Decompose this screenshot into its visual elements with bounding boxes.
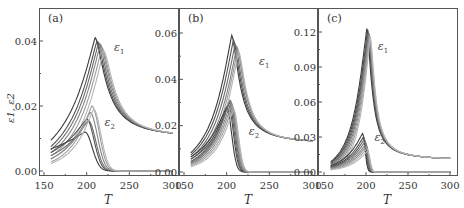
x-tick-label: 150 bbox=[314, 180, 333, 191]
panels: 1502002503000.000.020.04(a)ε1ε2T15020025… bbox=[15, 9, 460, 208]
panel-label: (c) bbox=[327, 12, 342, 25]
x-tick-label: 150 bbox=[174, 180, 193, 191]
curve-annotation: ε2 bbox=[105, 116, 115, 131]
y-tick-label: 0.09 bbox=[294, 62, 316, 73]
y-tick-label: 0.12 bbox=[294, 27, 316, 38]
x-tick-label: 300 bbox=[440, 180, 459, 191]
curve-annotation: ε2 bbox=[249, 125, 259, 140]
panel-c: 1502002503000.000.030.060.090.12(c)ε1ε2T bbox=[294, 9, 460, 208]
y-tick-label: 0.02 bbox=[155, 120, 177, 131]
figure: 1502002503000.000.020.04(a)ε1ε2T15020025… bbox=[0, 0, 464, 208]
x-tick-label: 150 bbox=[34, 180, 53, 191]
x-axis-label: T bbox=[383, 193, 392, 207]
curves bbox=[331, 29, 451, 173]
x-axis-label: T bbox=[104, 193, 113, 207]
curve-epsilon2 bbox=[51, 132, 173, 171]
x-tick-label: 200 bbox=[356, 180, 375, 191]
x-tick-label: 250 bbox=[398, 180, 417, 191]
curve-annotation: ε1 bbox=[259, 55, 269, 70]
panel-label: (b) bbox=[188, 12, 204, 25]
x-axis-label: T bbox=[244, 193, 253, 207]
x-tick-label: 250 bbox=[260, 180, 279, 191]
y-tick-label: 0.00 bbox=[155, 167, 177, 178]
x-tick-label: 250 bbox=[120, 180, 139, 191]
y-tick-label: 0.04 bbox=[155, 74, 177, 85]
y-tick-label: 0.03 bbox=[294, 132, 316, 143]
y-tick-label: 0.06 bbox=[155, 28, 177, 39]
y-tick-label: 0.02 bbox=[15, 101, 37, 112]
y-tick-label: 0.04 bbox=[15, 36, 37, 47]
curve-annotation: ε1 bbox=[378, 40, 388, 55]
curve-annotation: ε1 bbox=[114, 41, 124, 56]
curves bbox=[51, 38, 173, 171]
curve-epsilon1 bbox=[51, 51, 173, 159]
y-tick-label: 0.00 bbox=[294, 167, 316, 178]
x-tick-label: 200 bbox=[77, 180, 96, 191]
y-axis-label: ε1, ε2 bbox=[5, 93, 16, 123]
y-tick-label: 0.00 bbox=[15, 166, 37, 177]
panel-frame bbox=[319, 9, 458, 176]
panel-label: (a) bbox=[48, 12, 63, 25]
y-tick-label: 0.06 bbox=[294, 97, 316, 108]
x-tick-label: 200 bbox=[217, 180, 236, 191]
